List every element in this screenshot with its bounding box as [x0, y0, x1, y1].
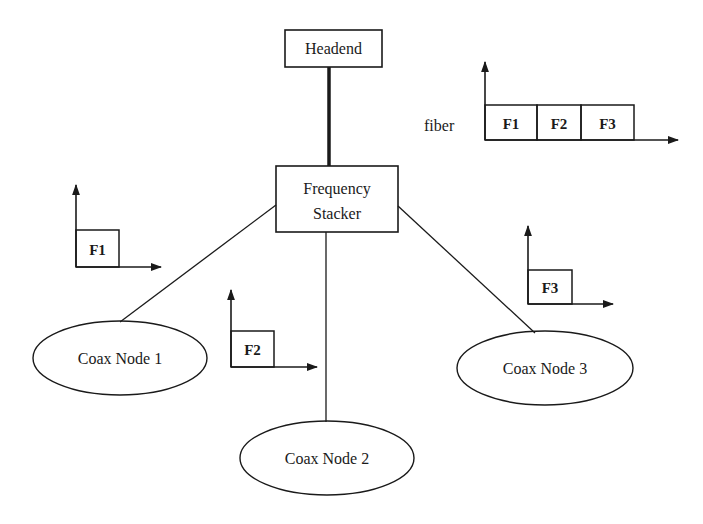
coax-node-3: Coax Node 3 [457, 331, 633, 405]
headend-box: Headend [285, 30, 382, 67]
fiber-axis-label: fiber [424, 117, 455, 134]
frequency-stacker-box: Frequency Stacker [276, 166, 398, 232]
fiber-band-f3-label: F3 [599, 116, 616, 132]
coax-node-2-label: Coax Node 2 [285, 450, 369, 467]
node2-band-label: F2 [244, 342, 261, 358]
link-stacker-node3 [398, 206, 535, 333]
frequency-stacking-diagram: Headend Frequency Stacker Coax Node 1 Co… [0, 0, 703, 524]
coax-node-1-label: Coax Node 1 [78, 350, 162, 367]
coax-node-2: Coax Node 2 [240, 421, 414, 495]
stacker-label-line1: Frequency [303, 180, 371, 198]
fiber-band-f2-label: F2 [551, 116, 568, 132]
node2-spectrum-chart: F2 [231, 290, 317, 367]
node1-band-label: F1 [89, 242, 106, 258]
node3-band-label: F3 [542, 280, 559, 296]
fiber-band-f1-label: F1 [503, 116, 520, 132]
stacker-label-line2: Stacker [313, 205, 362, 222]
node3-spectrum-chart: F3 [528, 226, 613, 304]
link-stacker-node1 [120, 205, 276, 322]
node1-spectrum-chart: F1 [76, 185, 161, 267]
headend-label: Headend [305, 40, 362, 57]
coax-node-3-label: Coax Node 3 [503, 360, 587, 377]
fiber-spectrum-chart: fiber F1 F2 F3 [424, 62, 678, 140]
coax-node-1: Coax Node 1 [33, 321, 207, 395]
